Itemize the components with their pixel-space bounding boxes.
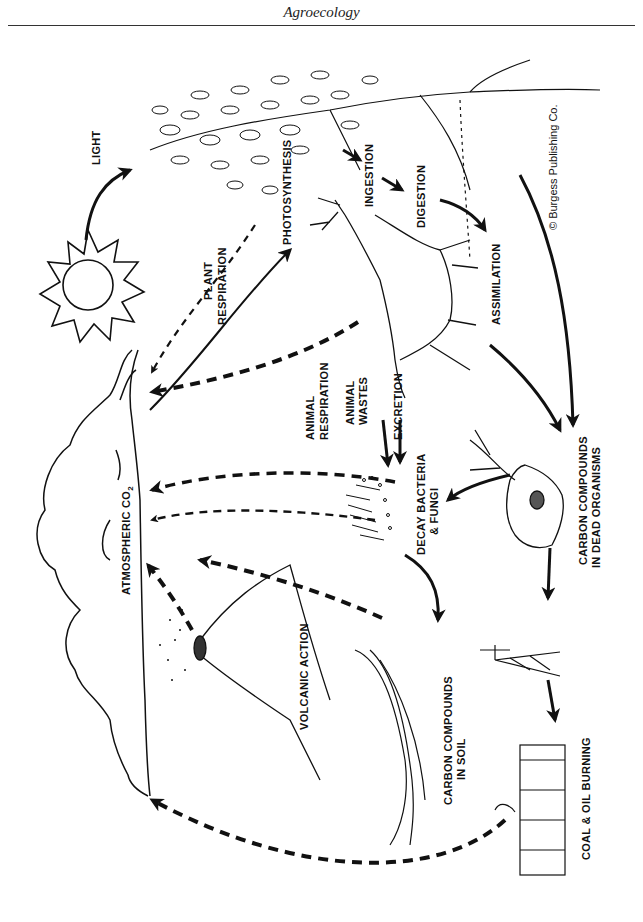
deer-icon bbox=[310, 198, 478, 398]
label-plant-respiration-line1: PLANT bbox=[202, 262, 214, 300]
copyright-notice: © Burgess Publishing Co. bbox=[547, 104, 559, 230]
label-assimilation: ASSIMILATION bbox=[490, 243, 502, 325]
soil-layers-icon bbox=[355, 650, 425, 845]
oil-derrick-icon bbox=[480, 645, 560, 676]
carbon-cycle-diagram: LIGHT PLANT RESPIRATION PHOTOSYNTHESIS I… bbox=[0, 0, 643, 922]
label-decay-line1: DECAY BACTERIA bbox=[415, 454, 427, 555]
arrow-assimilation bbox=[440, 200, 485, 230]
atmosphere-cloud-icon bbox=[37, 350, 150, 796]
sun-icon bbox=[40, 230, 144, 342]
label-dead-organisms-line1: CARBON COMPOUNDS bbox=[577, 436, 589, 565]
arrow-dead-to-decay bbox=[448, 475, 510, 500]
label-soil-line1: CARBON COMPOUNDS bbox=[442, 676, 454, 805]
label-atmospheric-co2-text: ATMOSPHERIC CO bbox=[120, 491, 132, 595]
tree-icon bbox=[150, 60, 600, 260]
label-ingestion: INGESTION bbox=[363, 144, 375, 207]
arrow-dead-to-fossil bbox=[548, 548, 550, 598]
label-digestion: DIGESTION bbox=[415, 165, 427, 228]
label-excretion: EXCRETION bbox=[392, 373, 404, 440]
label-volcanic-action: VOLCANIC ACTION bbox=[298, 623, 310, 730]
label-light: LIGHT bbox=[90, 131, 102, 166]
arrow-burning-to-co2 bbox=[152, 800, 505, 863]
label-animal-wastes-line1: ANIMAL bbox=[344, 380, 356, 425]
factory-icon bbox=[495, 745, 565, 875]
label-animal-respiration-line1: ANIMAL bbox=[304, 395, 316, 440]
arrow-light bbox=[86, 170, 130, 240]
arrow-to-dead-organisms bbox=[490, 345, 560, 430]
arrow-digestion bbox=[382, 178, 402, 190]
arrow-decay-to-soil bbox=[405, 555, 438, 620]
arrow-decay-to-co2-2 bbox=[152, 511, 375, 520]
label-animal-respiration-line2: RESPIRATION bbox=[318, 362, 330, 440]
arrow-decay-to-co2 bbox=[152, 473, 395, 490]
arrow-fossil-to-burning bbox=[548, 680, 555, 720]
label-photosynthesis: PHOTOSYNTHESIS bbox=[281, 140, 293, 245]
label-dead-organisms-line2: IN DEAD ORGANISMS bbox=[590, 447, 602, 568]
decay-bacteria-icon bbox=[346, 477, 392, 541]
arrow-animal-wastes bbox=[383, 420, 388, 465]
label-coal-oil-burning: COAL & OIL BURNING bbox=[580, 737, 592, 860]
elk-skull-icon bbox=[470, 430, 563, 548]
label-plant-respiration-line2: RESPIRATION bbox=[216, 247, 228, 325]
arrow-ingestion bbox=[343, 150, 360, 160]
label-animal-wastes-line2: WASTES bbox=[357, 377, 369, 425]
label-atmospheric-co2: ATMOSPHERIC CO2 bbox=[120, 486, 135, 595]
label-co2-subscript: 2 bbox=[126, 486, 135, 491]
label-soil-line2: IN SOIL bbox=[455, 738, 467, 780]
label-decay-line2: & FUNGI bbox=[428, 488, 440, 535]
